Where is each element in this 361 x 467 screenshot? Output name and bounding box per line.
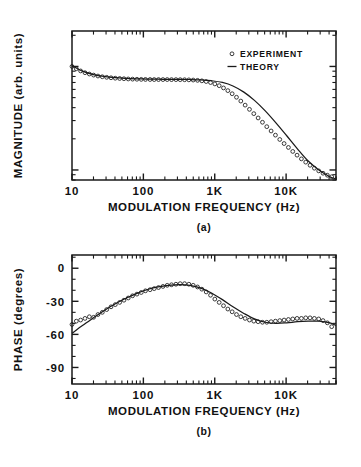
data-point: [274, 133, 278, 137]
x-tick-labels-a: 101001K10K: [65, 185, 298, 197]
panel-b: 101001K10K0-30-60-90MODULATION FREQUENCY…: [12, 255, 336, 437]
x-tick-labels-b: 101001K10K: [65, 389, 298, 401]
x-axis-label-b: MODULATION FREQUENCY (Hz): [108, 405, 300, 417]
plot-frame-b: [72, 255, 336, 384]
x-tick-label: 10: [65, 185, 79, 197]
data-point: [269, 129, 273, 133]
data-point: [287, 146, 291, 150]
data-point: [300, 317, 304, 321]
data-point: [261, 120, 265, 124]
y-ticks-b: [72, 257, 336, 378]
data-point: [243, 103, 247, 107]
x-tick-label: 100: [133, 185, 155, 197]
y-axis-label-a: MAGNITUDE (arb. units): [12, 33, 24, 178]
x-tick-label: 10K: [274, 389, 298, 401]
data-point: [304, 316, 308, 320]
data-point: [74, 319, 78, 323]
y-tick-labels-b: 0-30-60-90: [46, 262, 65, 373]
data-point: [317, 317, 321, 321]
x-tick-label: 100: [133, 389, 155, 401]
data-point: [226, 307, 230, 311]
data-point: [282, 142, 286, 146]
data-point: [295, 317, 299, 321]
y-tick-label: -60: [46, 329, 65, 341]
data-point: [308, 316, 312, 320]
x-tick-label: 10K: [274, 185, 298, 197]
data-point: [278, 319, 282, 323]
legend-label-experiment: EXPERIMENT: [240, 49, 303, 59]
data-point: [274, 319, 278, 323]
legend-panel-a: EXPERIMENTTHEORY: [228, 49, 303, 72]
x-tick-label: 1K: [207, 185, 223, 197]
data-point: [235, 95, 239, 99]
data-point: [222, 86, 226, 90]
data-point: [300, 157, 304, 161]
data-point: [79, 318, 83, 322]
y-tick-label: -30: [46, 296, 65, 308]
data-point: [312, 317, 316, 321]
data-point: [239, 315, 243, 319]
theory-curve-a: [72, 66, 336, 179]
data-point: [226, 89, 230, 93]
panel-caption-a: (a): [197, 221, 211, 233]
data-point: [248, 107, 252, 111]
data-point: [256, 116, 260, 120]
panel-caption-b: (b): [197, 425, 212, 437]
legend-label-theory: THEORY: [240, 62, 280, 72]
data-point: [87, 315, 91, 319]
x-ticks-b: [72, 255, 336, 384]
data-point: [213, 82, 217, 86]
data-point: [217, 84, 221, 88]
experiment-points-a: [70, 65, 333, 179]
figure-root: 101001K10KMODULATION FREQUENCY (Hz)MAGNI…: [0, 0, 361, 467]
data-point: [248, 318, 252, 322]
legend-marker-circle: [230, 52, 234, 56]
data-point: [295, 153, 299, 157]
y-axis-label-b: PHASE (degrees): [12, 268, 24, 372]
data-point: [278, 138, 282, 142]
data-point: [252, 112, 256, 116]
data-point: [213, 297, 217, 301]
data-point: [330, 325, 334, 329]
x-tick-label: 1K: [207, 389, 223, 401]
y-tick-label: -90: [46, 362, 65, 374]
data-point: [217, 301, 221, 305]
data-point: [230, 92, 234, 96]
data-point: [291, 317, 295, 321]
data-point: [287, 318, 291, 322]
y-tick-label: 0: [58, 262, 65, 274]
data-point: [230, 310, 234, 314]
data-point: [222, 304, 226, 308]
data-point: [265, 125, 269, 129]
data-point: [282, 318, 286, 322]
data-point: [243, 317, 247, 321]
data-point: [83, 317, 87, 321]
panel-a: 101001K10KMODULATION FREQUENCY (Hz)MAGNI…: [12, 31, 336, 233]
figure-canvas: 101001K10KMODULATION FREQUENCY (Hz)MAGNI…: [0, 0, 361, 467]
data-point: [239, 99, 243, 103]
x-axis-label-a: MODULATION FREQUENCY (Hz): [108, 201, 300, 213]
data-point: [235, 313, 239, 317]
x-tick-label: 10: [65, 389, 79, 401]
data-point: [304, 160, 308, 164]
data-point: [291, 150, 295, 154]
